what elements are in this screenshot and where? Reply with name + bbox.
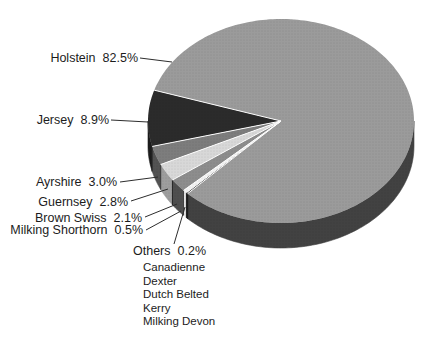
others-breed-item: Milking Devon bbox=[143, 315, 215, 329]
slice-percent: 3.0% bbox=[89, 175, 118, 189]
slice-label-guernsey: Guernsey2.8% bbox=[38, 195, 128, 209]
others-breed-item: Kerry bbox=[143, 302, 215, 316]
slice-name: Holstein bbox=[50, 51, 95, 65]
slice-label-holstein: Holstein82.5% bbox=[50, 51, 138, 65]
leader-line-brown-swiss bbox=[145, 204, 177, 217]
halftone-texture-overlay bbox=[148, 19, 414, 248]
leader-line-holstein bbox=[140, 58, 172, 62]
slice-label-ayrshire: Ayrshire3.0% bbox=[36, 175, 117, 189]
others-breed-item: Dexter bbox=[143, 275, 215, 289]
others-breed-item: Canadienne bbox=[143, 261, 215, 275]
leader-line-jersey bbox=[111, 120, 148, 122]
slice-name: Jersey bbox=[37, 113, 74, 127]
slice-percent: 2.8% bbox=[100, 195, 129, 209]
pie-chart-figure: Holstein82.5%Jersey8.9%Ayrshire3.0%Guern… bbox=[0, 0, 435, 337]
slice-name: Others bbox=[133, 244, 171, 258]
slice-label-jersey: Jersey8.9% bbox=[37, 113, 109, 127]
leader-line-guernsey bbox=[131, 189, 168, 201]
others-breakdown-list: CanadienneDexterDutch BeltedKerryMilking… bbox=[143, 261, 215, 329]
leader-line-others bbox=[174, 207, 185, 244]
slice-name: Ayrshire bbox=[36, 175, 82, 189]
slice-label-milking-shorthorn: Milking Shorthorn0.5% bbox=[10, 223, 143, 237]
slice-percent: 0.2% bbox=[178, 244, 207, 258]
slice-name: Guernsey bbox=[38, 195, 92, 209]
leader-line-ayrshire bbox=[120, 177, 158, 182]
slice-name: Milking Shorthorn bbox=[10, 223, 107, 237]
leader-line-milking-shorthorn bbox=[146, 211, 181, 230]
others-breed-item: Dutch Belted bbox=[143, 288, 215, 302]
slice-label-others: Others0.2% bbox=[133, 244, 206, 258]
slice-percent: 0.5% bbox=[115, 223, 144, 237]
slice-percent: 82.5% bbox=[103, 51, 138, 65]
slice-percent: 8.9% bbox=[81, 113, 110, 127]
